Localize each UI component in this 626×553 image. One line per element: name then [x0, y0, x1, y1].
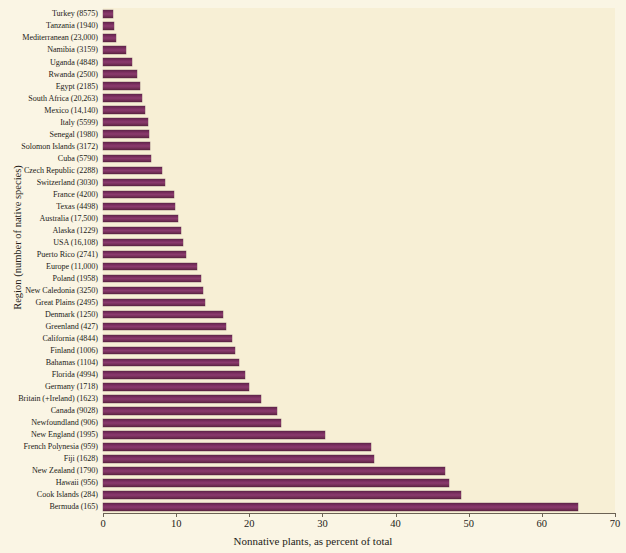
bar-chart-figure: Turkey (8575)Tanzania (1940)Mediterranea…: [0, 0, 626, 553]
y-axis-tick-label: Fiji (1628): [64, 454, 98, 463]
bar: [103, 323, 226, 331]
y-axis-tick-label: Germany (1718): [45, 382, 98, 391]
y-axis-tick-label: Europe (11,000): [46, 262, 98, 271]
y-axis-tick-label: Florida (4994): [52, 370, 98, 379]
bar: [103, 155, 151, 163]
y-axis-tick-label: Cook Islands (284): [37, 490, 98, 499]
bar: [103, 227, 181, 235]
bar: [103, 395, 261, 403]
y-axis-tick-label: Switzerland (3030): [37, 178, 98, 187]
y-axis-tick-label: France (4200): [53, 190, 98, 199]
bar: [103, 419, 281, 427]
y-axis-tick-label: Czech Republic (2288): [24, 166, 98, 175]
bar: [103, 191, 174, 199]
bar: [103, 130, 149, 138]
x-axis-tick-label: 30: [317, 518, 328, 529]
y-axis-tick-label: Tanzania (1940): [46, 21, 98, 30]
y-axis-tick-label: Uganda (4848): [50, 58, 98, 67]
x-axis-tick-mark: [615, 513, 616, 517]
y-axis-tick-label: New Caledonia (3250): [25, 286, 98, 295]
bar: [103, 167, 162, 175]
bar: [103, 251, 186, 259]
y-axis-tick-label: Texas (4498): [56, 202, 98, 211]
y-axis-tick-label: Senegal (1980): [49, 130, 98, 139]
bar: [103, 407, 277, 415]
y-axis-tick-label: Alaska (1229): [53, 226, 98, 235]
y-axis-tick-label: Egypt (2185): [56, 82, 98, 91]
bar: [103, 359, 239, 367]
bar: [103, 503, 578, 511]
bar: [103, 106, 145, 114]
bar: [103, 82, 140, 90]
y-axis-tick-label: Cuba (5790): [58, 154, 98, 163]
bar: [103, 34, 116, 42]
y-axis-tick-label: Hawaii (956): [56, 478, 98, 487]
y-axis-tick-label: Namibia (3159): [47, 45, 98, 54]
x-axis-tick-mark: [249, 513, 250, 517]
plot-area: [103, 8, 615, 513]
x-axis-tick-label: 0: [100, 518, 105, 529]
bar: [103, 383, 249, 391]
x-axis-tick-label: 20: [244, 518, 255, 529]
bar: [103, 263, 197, 271]
bar: [103, 479, 449, 487]
bar: [103, 491, 461, 499]
y-axis-tick-label: Canada (9028): [51, 406, 98, 415]
y-axis-tick-label: USA (16,108): [53, 238, 98, 247]
y-axis-tick-label: Bermuda (165): [49, 502, 98, 511]
y-axis-tick-label: Denmark (1250): [45, 310, 98, 319]
x-axis-tick-label: 40: [390, 518, 401, 529]
bar: [103, 311, 223, 319]
x-axis-tick-mark: [176, 513, 177, 517]
y-axis-tick-label: New Zealand (1790): [32, 466, 98, 475]
bar: [103, 287, 203, 295]
y-axis-tick-label: Britain (+Ireland) (1623): [18, 394, 98, 403]
y-axis-tick-label: Mexico (14,140): [44, 106, 98, 115]
x-axis-title: Nonnative plants, as percent of total: [0, 535, 626, 547]
y-axis-tick-label: Italy (5599): [60, 118, 98, 127]
x-axis-tick-label: 70: [610, 518, 621, 529]
x-axis-tick-mark: [396, 513, 397, 517]
y-axis-tick-label: Solomon Islands (3172): [21, 142, 98, 151]
y-axis-tick-label: Poland (1958): [53, 274, 98, 283]
y-axis-tick-label: South Africa (20,263): [28, 94, 98, 103]
x-axis-tick-mark: [542, 513, 543, 517]
x-axis-tick-mark: [322, 513, 323, 517]
bar: [103, 335, 232, 343]
y-axis-tick-label: Bahamas (1104): [46, 358, 98, 367]
bar: [103, 94, 142, 102]
y-axis-tick-label: Great Plains (2495): [36, 298, 98, 307]
bar: [103, 275, 201, 283]
bar: [103, 70, 137, 78]
x-axis-tick-mark: [103, 513, 104, 517]
y-axis-tick-label: French Polynesia (959): [24, 442, 98, 451]
bar: [103, 179, 165, 187]
y-axis-tick-label: New England (1995): [31, 430, 98, 439]
y-axis-tick-label: Mediterranean (23,000): [22, 33, 98, 42]
bar: [103, 443, 371, 451]
y-axis-tick-label: Puerto Rico (2741): [37, 250, 98, 259]
bar: [103, 22, 114, 30]
x-axis-tick-label: 50: [463, 518, 474, 529]
bar: [103, 467, 445, 475]
bar: [103, 455, 374, 463]
x-axis-tick-label: 10: [171, 518, 182, 529]
y-axis-tick-label: Australia (17,500): [40, 214, 98, 223]
bar: [103, 142, 150, 150]
y-axis-tick-label: Finland (1006): [50, 346, 98, 355]
bar: [103, 58, 132, 66]
bar: [103, 203, 175, 211]
bar: [103, 10, 113, 18]
bar: [103, 431, 325, 439]
y-axis-tick-label: California (4844): [42, 334, 98, 343]
y-axis-title: Region (number of native species): [12, 123, 23, 353]
bar: [103, 239, 183, 247]
y-axis-tick-label: Newfoundland (906): [31, 418, 98, 427]
bar: [103, 299, 205, 307]
x-axis-line: [103, 513, 615, 514]
x-axis-tick-mark: [469, 513, 470, 517]
y-axis-tick-label: Turkey (8575): [52, 9, 98, 18]
bar: [103, 371, 245, 379]
x-axis-tick-label: 60: [537, 518, 548, 529]
y-axis-tick-label: Greenland (427): [45, 322, 98, 331]
